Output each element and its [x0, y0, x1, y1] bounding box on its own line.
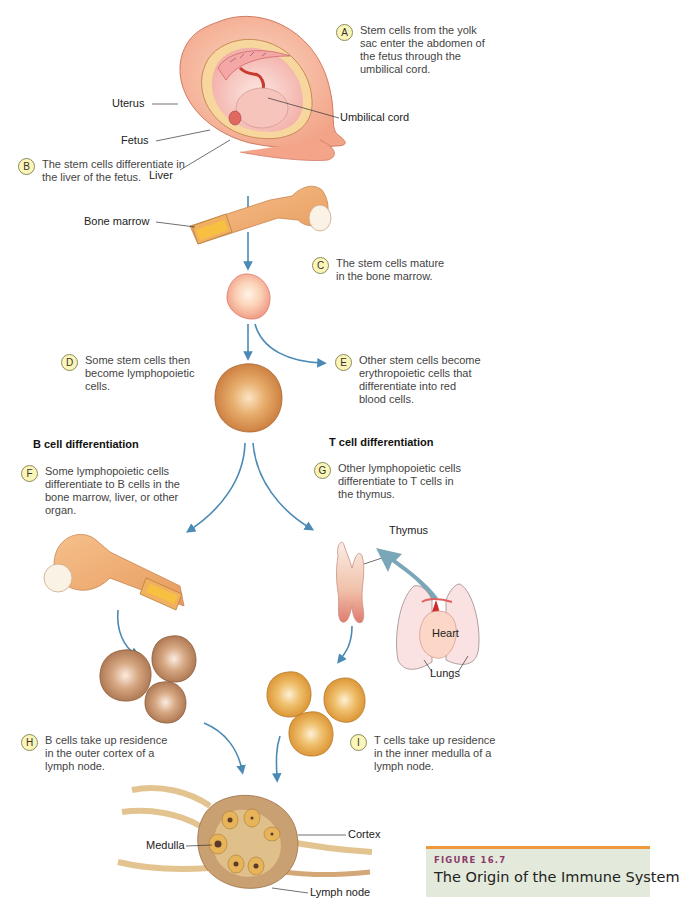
label-heart: Heart	[432, 627, 459, 639]
step-badge: C	[312, 257, 329, 274]
label-liver: Liver	[149, 169, 173, 181]
step-g: G Other lymphopoietic cells differentiat…	[314, 462, 474, 501]
label-thymus: Thymus	[389, 524, 428, 536]
step-badge: I	[350, 734, 367, 751]
step-badge: D	[61, 354, 78, 371]
step-badge: B	[18, 158, 35, 175]
lymphopoietic-cell	[215, 364, 282, 432]
arrow-b-cells-to-lymph-node	[204, 723, 242, 770]
step-text: Some lymphopoietic cells differentiate t…	[45, 465, 183, 517]
step-text: The stem cells mature in the bone marrow…	[336, 257, 448, 283]
heading-t-cell-differentiation: T cell differentiation	[329, 436, 434, 448]
step-badge: F	[21, 465, 38, 482]
uterus-illustration	[180, 16, 345, 160]
step-text: Some stem cells then become lymphopoieti…	[85, 354, 205, 393]
arrow-to-erythropoietic	[255, 324, 322, 363]
arrow-to-b-cells	[190, 443, 245, 530]
step-text: Other lymphopoietic cells differentiate …	[338, 462, 468, 501]
arrow-to-b-cell-cluster	[118, 610, 136, 654]
step-text: Other stem cells become erythropoietic c…	[359, 354, 484, 406]
label-fetus: Fetus	[121, 134, 149, 146]
label-bone-marrow: Bone marrow	[84, 215, 149, 227]
b-cell-cluster	[100, 636, 196, 723]
label-cortex: Cortex	[348, 828, 380, 840]
label-lungs: Lungs	[430, 667, 460, 679]
arrow-heart-to-thymus	[376, 548, 438, 600]
stem-cell	[227, 274, 270, 319]
step-text: Stem cells from the yolk sac enter the a…	[360, 24, 490, 76]
figure-title: The Origin of the Immune System	[434, 869, 680, 885]
step-h: H B cells take up residence in the outer…	[21, 734, 181, 773]
step-badge: A	[336, 24, 353, 41]
arrow-to-t-cell-cluster	[340, 626, 352, 660]
label-umbilical-cord: Umbilical cord	[340, 111, 409, 123]
label-uterus: Uterus	[112, 97, 144, 109]
b-cell-bone-illustration	[44, 534, 184, 610]
step-badge: E	[335, 354, 352, 371]
step-i: I T cells take up residence in the inner…	[350, 734, 510, 773]
step-c: C The stem cells mature in the bone marr…	[312, 257, 452, 283]
label-lymph-node: Lymph node	[310, 886, 370, 898]
step-badge: G	[314, 462, 331, 479]
step-a: A Stem cells from the yolk sac enter the…	[336, 24, 496, 76]
step-badge: H	[21, 734, 38, 751]
figure-caption: FIGURE 16.7 The Origin of the Immune Sys…	[426, 846, 650, 897]
step-e: E Other stem cells become erythropoietic…	[335, 354, 495, 406]
thymus-illustration	[337, 542, 364, 623]
figure-number: FIGURE 16.7	[434, 855, 506, 865]
step-text: B cells take up residence in the outer c…	[45, 734, 175, 773]
heading-b-cell-differentiation: B cell differentiation	[33, 438, 139, 450]
arrow-t-cells-to-lymph-node	[276, 736, 280, 778]
step-text: T cells take up residence in the inner m…	[374, 734, 504, 773]
bone-marrow-leader	[156, 222, 195, 227]
bone-marrow-illustration	[190, 186, 331, 244]
step-f: F Some lymphopoietic cells differentiate…	[21, 465, 191, 517]
label-medulla: Medulla	[146, 839, 185, 851]
step-d: D Some stem cells then become lymphopoie…	[61, 354, 211, 393]
arrow-to-t-cells	[253, 443, 310, 528]
